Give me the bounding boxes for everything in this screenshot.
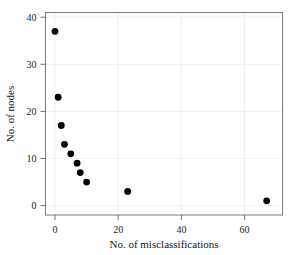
- y-tick-label: 10: [27, 153, 37, 164]
- gridlines-group: [46, 13, 283, 216]
- data-point: [52, 28, 59, 35]
- x-tick-label: 40: [176, 224, 186, 235]
- plot-frame: [46, 13, 283, 216]
- y-tick-label: 20: [27, 106, 37, 117]
- data-points-group: [52, 28, 271, 204]
- y-tick-label: 40: [27, 12, 37, 23]
- scatter-plot-figure: 0204060 010203040 No. of misclassificati…: [0, 0, 294, 255]
- x-tick-label: 20: [113, 224, 123, 235]
- y-axis-ticks-group: [41, 17, 46, 205]
- data-point: [55, 94, 62, 101]
- data-point: [83, 179, 90, 186]
- data-point: [58, 122, 65, 129]
- data-point: [77, 169, 84, 176]
- data-point: [124, 188, 131, 195]
- x-axis-title: No. of misclassifications: [109, 238, 218, 250]
- x-tick-label: 0: [52, 224, 57, 235]
- data-point: [263, 197, 270, 204]
- plot-canvas: 0204060 010203040 No. of misclassificati…: [0, 0, 294, 255]
- x-axis-ticks-group: [55, 215, 245, 220]
- y-tick-label: 30: [27, 59, 37, 70]
- data-point: [74, 160, 81, 167]
- y-axis-tick-labels-group: 010203040: [27, 12, 37, 211]
- x-tick-label: 60: [240, 224, 250, 235]
- data-point: [61, 141, 68, 148]
- x-axis-tick-labels-group: 0204060: [52, 224, 249, 235]
- data-point: [67, 150, 74, 157]
- y-tick-label: 0: [32, 200, 37, 211]
- y-axis-title: No. of nodes: [4, 86, 16, 143]
